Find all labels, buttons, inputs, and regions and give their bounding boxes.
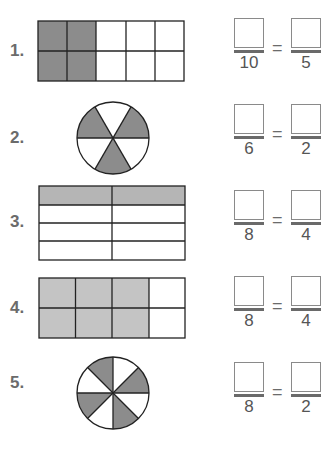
denominator: 8 — [234, 312, 264, 330]
problem-2-label: 2. — [10, 128, 24, 148]
answer-box-2-numerator-right[interactable] — [291, 104, 321, 134]
denominator: 4 — [291, 226, 321, 244]
fraction-2-right: 2 — [291, 104, 321, 158]
circle-figure-5 — [75, 355, 151, 431]
denominator: 5 — [291, 54, 321, 72]
problem-5-label: 5. — [10, 373, 24, 393]
answer-box-1-numerator-right[interactable] — [291, 18, 321, 48]
answer-box-2-numerator-left[interactable] — [234, 104, 264, 134]
fraction-4-right: 4 — [291, 276, 321, 330]
grid-figure-1 — [37, 20, 187, 84]
denominator: 4 — [291, 312, 321, 330]
answer-box-4-numerator-right[interactable] — [291, 276, 321, 306]
fraction-2-left: 6 — [234, 104, 264, 158]
fraction-1-left: 10 — [234, 18, 264, 72]
denominator: 8 — [234, 226, 264, 244]
denominator: 10 — [234, 54, 264, 72]
fraction-1-right: 5 — [291, 18, 321, 72]
answer-box-1-numerator-left[interactable] — [234, 18, 264, 48]
fraction-3-left: 8 — [234, 190, 264, 244]
equals-sign: = — [272, 382, 283, 403]
answer-box-4-numerator-left[interactable] — [234, 276, 264, 306]
equals-sign: = — [272, 124, 283, 145]
equals-sign: = — [272, 38, 283, 59]
equals-sign: = — [272, 296, 283, 317]
answer-box-3-numerator-right[interactable] — [291, 190, 321, 220]
fraction-5-left: 8 — [234, 362, 264, 416]
problem-1-label: 1. — [10, 41, 24, 61]
denominator: 6 — [234, 140, 264, 158]
denominator: 2 — [291, 398, 321, 416]
fraction-5-right: 2 — [291, 362, 321, 416]
denominator: 2 — [291, 140, 321, 158]
answer-box-3-numerator-left[interactable] — [234, 190, 264, 220]
circle-figure-2 — [75, 100, 151, 176]
fraction-3-right: 4 — [291, 190, 321, 244]
fraction-4-left: 8 — [234, 276, 264, 330]
denominator: 8 — [234, 398, 264, 416]
problem-3-label: 3. — [10, 212, 24, 232]
problem-4-label: 4. — [10, 298, 24, 318]
answer-box-5-numerator-left[interactable] — [234, 362, 264, 392]
equals-sign: = — [272, 210, 283, 231]
answer-box-5-numerator-right[interactable] — [291, 362, 321, 392]
grid-figure-4 — [38, 277, 188, 341]
table-figure-3 — [38, 185, 188, 263]
